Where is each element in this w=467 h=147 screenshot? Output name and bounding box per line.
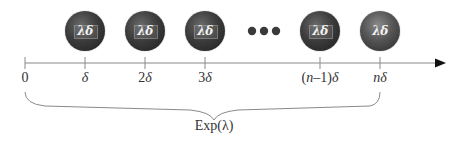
coin-label: λδ: [77, 24, 92, 38]
coin-tails: λδ: [65, 11, 105, 51]
tick-label-0: 0: [22, 70, 29, 86]
tick-coefficient: 3: [198, 70, 205, 85]
tick-text: 0: [22, 70, 29, 85]
ellipsis-dot: [248, 27, 256, 35]
curly-brace: [25, 92, 380, 120]
delta-symbol: δ: [332, 70, 339, 85]
delta-symbol: δ: [145, 70, 152, 85]
tick-label-2delta: 2δ: [138, 70, 152, 86]
exponential-coin-flip-diagram: λδ λδ λδ λδ λδ 0 δ 2δ 3δ (n–1)δ nδ Exp(λ…: [0, 0, 467, 147]
tick-coefficient: 2: [138, 70, 145, 85]
coin-label: λδ: [372, 24, 387, 38]
minus-one: –1): [313, 70, 332, 85]
delta-symbol: δ: [380, 70, 387, 85]
coin-heads: λδ: [360, 11, 400, 51]
n-symbol: n: [373, 70, 380, 85]
tick-label-delta: δ: [82, 70, 89, 86]
coin-label: λδ: [312, 24, 327, 38]
coin-label: λδ: [137, 24, 152, 38]
tick-label-n-delta: nδ: [373, 70, 387, 86]
n-symbol: n: [306, 70, 313, 85]
tick-label-3delta: 3δ: [198, 70, 212, 86]
ellipsis-dot: [272, 27, 280, 35]
tick-label-n-minus-1-delta: (n–1)δ: [302, 70, 339, 86]
brace-label-exponential: Exp(λ): [195, 118, 234, 134]
axis-arrow-icon: [435, 59, 446, 68]
delta-symbol: δ: [205, 70, 212, 85]
coin-tails: λδ: [185, 11, 225, 51]
ellipsis-dot: [260, 27, 268, 35]
coin-label: λδ: [197, 24, 212, 38]
delta-symbol: δ: [82, 70, 89, 85]
coin-tails: λδ: [125, 11, 165, 51]
coin-tails: λδ: [300, 11, 340, 51]
